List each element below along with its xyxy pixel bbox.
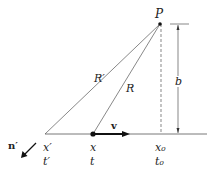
n-prime-arrow-shaft xyxy=(24,143,36,155)
label-n-prime: n′ xyxy=(8,141,18,151)
b-arrow-bottom xyxy=(177,128,180,133)
b-arrow-top xyxy=(177,25,180,30)
label-r: R xyxy=(126,83,134,94)
label-x: x xyxy=(90,142,96,153)
label-r-prime: R′ xyxy=(94,73,105,84)
label-x-prime: x′ xyxy=(43,142,52,153)
velocity-arrowhead xyxy=(122,131,130,137)
label-x0: x₀ xyxy=(155,142,166,153)
label-t-prime: t′ xyxy=(43,156,50,167)
label-t: t xyxy=(90,156,94,167)
label-t0: t₀ xyxy=(155,156,164,167)
label-v: v xyxy=(111,121,117,131)
point-p-dot xyxy=(158,22,162,26)
label-b: b xyxy=(175,76,182,87)
label-p: P xyxy=(155,8,163,20)
diagram-canvas xyxy=(0,0,217,178)
